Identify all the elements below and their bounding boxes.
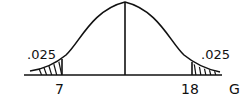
right-tail-area-label: .025 [201, 47, 230, 62]
normal-curve-diagram: .025 .025 7 18 G [0, 0, 251, 104]
right-critical-value-label: 18 [181, 81, 199, 97]
axis-variable-label: G [229, 81, 240, 97]
left-critical-value-label: 7 [55, 81, 64, 97]
left-tail-area-label: .025 [27, 47, 56, 62]
